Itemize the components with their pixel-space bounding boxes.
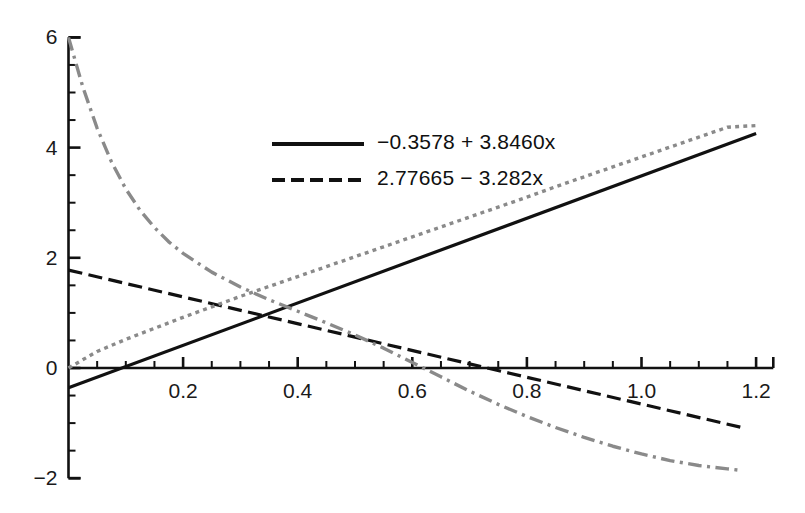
series-gray-dotted-rising-curve bbox=[69, 126, 757, 368]
chart-canvas bbox=[0, 0, 805, 513]
series-gray-dashdot-decaying-curve bbox=[69, 37, 742, 470]
x-axis-tick-label: 1.2 bbox=[741, 379, 770, 403]
y-axis-tick-label: 6 bbox=[0, 25, 58, 49]
x-axis-tick-label: 0.8 bbox=[512, 379, 541, 403]
x-axis-tick-label: 0.2 bbox=[168, 379, 197, 403]
y-axis-tick-label: 0 bbox=[0, 356, 58, 380]
x-axis-tick-label: 1.0 bbox=[627, 379, 656, 403]
y-axis-tick-label: 4 bbox=[0, 136, 58, 160]
chart-figure: 0.20.40.60.81.01.2−20246−0.3578 + 3.8460… bbox=[0, 0, 805, 513]
y-axis-tick-label: 2 bbox=[0, 246, 58, 270]
x-axis-tick-label: 0.6 bbox=[398, 379, 427, 403]
y-axis-tick-label: −2 bbox=[0, 466, 58, 490]
legend-label: 2.77665 − 3.282x bbox=[377, 166, 543, 190]
legend-label: −0.3578 + 3.8460x bbox=[377, 130, 556, 154]
x-axis-tick-label: 0.4 bbox=[283, 379, 312, 403]
